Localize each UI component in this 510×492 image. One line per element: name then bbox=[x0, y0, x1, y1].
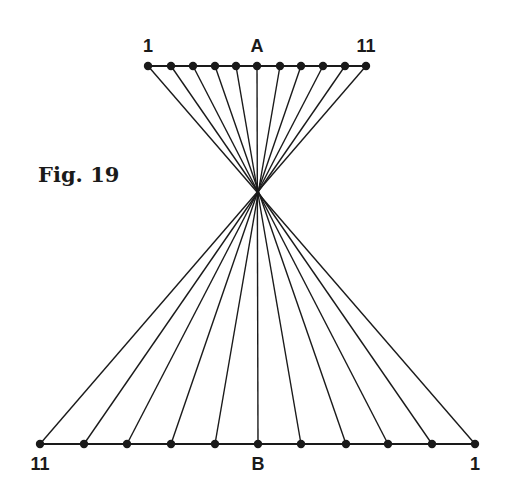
line-b-label: B bbox=[252, 454, 265, 474]
line-b-point-8 bbox=[342, 440, 350, 448]
ray bbox=[40, 66, 366, 444]
line-a-right-label: 11 bbox=[356, 36, 375, 56]
line-a-point-9 bbox=[319, 62, 327, 70]
line-b-point-9 bbox=[384, 440, 392, 448]
line-b-point-7 bbox=[297, 440, 305, 448]
cross-ratio-diagram: 1 A 11 11 B 1 bbox=[0, 0, 510, 492]
figure-caption: Fig. 19 bbox=[38, 162, 119, 187]
line-a-point-11 bbox=[362, 62, 370, 70]
line-a-point-4 bbox=[211, 62, 219, 70]
line-b-point-6 bbox=[254, 440, 262, 448]
line-a-left-label: 1 bbox=[143, 36, 153, 56]
line-b-point-5 bbox=[211, 440, 219, 448]
ray bbox=[171, 66, 432, 444]
ray bbox=[171, 66, 301, 444]
line-b-point-11 bbox=[471, 440, 479, 448]
line-a-point-10 bbox=[341, 62, 349, 70]
ray bbox=[84, 66, 345, 444]
line-a-point-2 bbox=[167, 62, 175, 70]
line-b-point-2 bbox=[80, 440, 88, 448]
line-b-point-1 bbox=[36, 440, 44, 448]
line-a-point-8 bbox=[297, 62, 305, 70]
line-a-point-1 bbox=[144, 62, 152, 70]
line-b-right-label: 1 bbox=[470, 454, 480, 474]
line-a-point-3 bbox=[189, 62, 197, 70]
line-a-point-5 bbox=[232, 62, 240, 70]
ray bbox=[215, 66, 346, 444]
line-a-label: A bbox=[251, 36, 264, 56]
line-b-point-4 bbox=[167, 440, 175, 448]
ray bbox=[148, 66, 475, 444]
line-a-point-6 bbox=[253, 62, 261, 70]
line-a-point-7 bbox=[276, 62, 284, 70]
line-b-point-10 bbox=[428, 440, 436, 448]
line-b-left-label: 11 bbox=[30, 454, 49, 474]
line-b-point-3 bbox=[123, 440, 131, 448]
ray bbox=[257, 66, 258, 444]
connecting-rays bbox=[40, 66, 475, 444]
ray bbox=[193, 66, 388, 444]
